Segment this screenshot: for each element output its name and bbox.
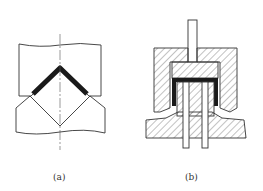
punch-plate <box>172 62 218 78</box>
figure-a <box>16 34 105 150</box>
diagram-canvas <box>0 0 263 191</box>
figure-b <box>146 20 246 148</box>
caption-a: (a) <box>53 172 65 182</box>
caption-b: (b) <box>185 172 198 182</box>
top-rod <box>188 20 197 62</box>
base-plate <box>146 112 246 138</box>
ejector-pin-right <box>202 82 208 148</box>
lower-die <box>16 96 105 134</box>
ejector-pin-left <box>183 82 189 148</box>
